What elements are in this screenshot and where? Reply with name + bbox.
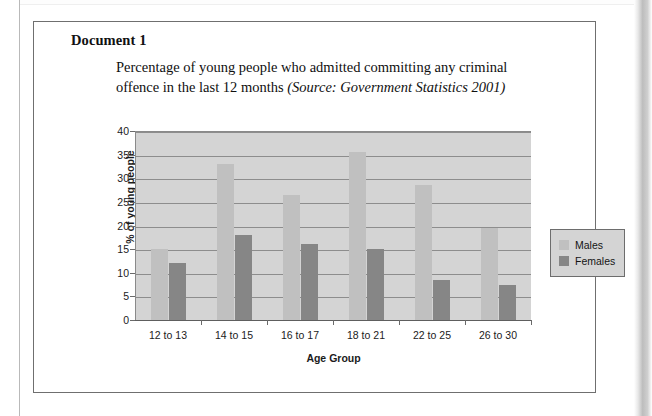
y-tick-label: 40 xyxy=(89,125,129,137)
gridline xyxy=(136,156,531,157)
bar-males-14-to-15 xyxy=(217,164,234,320)
plot-area xyxy=(135,131,531,320)
legend-item-males: Males xyxy=(559,237,615,253)
y-tick-mark xyxy=(130,249,135,250)
y-tick-label: 15 xyxy=(89,243,129,255)
bar-females-16-to-17 xyxy=(301,244,318,320)
gridline xyxy=(136,297,531,298)
y-tick-mark xyxy=(130,226,135,227)
y-tick-label: 10 xyxy=(89,267,129,279)
y-tick-label: 0 xyxy=(89,314,129,326)
y-tick-label: 25 xyxy=(89,196,129,208)
chart-legend: Males Females xyxy=(550,229,625,277)
bar-females-12-to-13 xyxy=(169,263,186,320)
x-tick-label: 26 to 30 xyxy=(453,329,543,341)
y-tick-mark xyxy=(130,320,135,321)
bar-males-22-to-25 xyxy=(415,185,432,320)
caption-source-text: (Source: Government Statistics 2001) xyxy=(287,79,505,95)
legend-item-females: Females xyxy=(559,253,615,269)
y-tick-label: 5 xyxy=(89,290,129,302)
legend-label-males: Males xyxy=(575,239,603,251)
x-tick-mark xyxy=(333,320,334,325)
document-box: Document 1 Percentage of young people wh… xyxy=(33,21,596,393)
chart-caption: Percentage of young people who admitted … xyxy=(116,58,516,97)
bar-males-18-to-21 xyxy=(349,152,366,320)
document-heading: Document 1 xyxy=(71,32,147,49)
page-top-strip xyxy=(20,0,634,5)
y-tick-mark xyxy=(130,155,135,156)
gridline xyxy=(136,227,531,228)
gridline xyxy=(136,132,531,133)
page-right-shadow xyxy=(634,0,652,416)
y-tick-label: 35 xyxy=(89,149,129,161)
x-axis-title: Age Group xyxy=(135,352,532,364)
y-tick-mark xyxy=(130,296,135,297)
bar-males-16-to-17 xyxy=(283,195,300,320)
y-tick-mark xyxy=(130,202,135,203)
bar-females-22-to-25 xyxy=(433,280,450,320)
y-tick-mark xyxy=(130,131,135,132)
page-left-edge xyxy=(19,0,20,416)
x-tick-mark xyxy=(267,320,268,325)
bar-females-26-to-30 xyxy=(499,285,516,320)
gridline xyxy=(136,203,531,204)
x-tick-mark xyxy=(399,320,400,325)
bar-chart: % of young people Age Group Males Female… xyxy=(71,123,591,373)
y-tick-label: 20 xyxy=(89,220,129,232)
y-tick-mark xyxy=(130,178,135,179)
bar-males-26-to-30 xyxy=(481,228,498,320)
gridline xyxy=(136,179,531,180)
plot-wrapper xyxy=(135,131,531,320)
y-tick-label: 30 xyxy=(89,172,129,184)
legend-swatch-males-icon xyxy=(559,240,569,250)
legend-swatch-females-icon xyxy=(559,256,569,266)
y-tick-mark xyxy=(130,273,135,274)
gridline xyxy=(136,274,531,275)
bar-males-12-to-13 xyxy=(151,249,168,320)
x-tick-mark xyxy=(465,320,466,325)
gridline xyxy=(136,250,531,251)
bar-females-14-to-15 xyxy=(235,235,252,320)
legend-label-females: Females xyxy=(575,255,615,267)
bar-females-18-to-21 xyxy=(367,249,384,320)
x-tick-mark xyxy=(531,320,532,325)
x-tick-mark xyxy=(201,320,202,325)
